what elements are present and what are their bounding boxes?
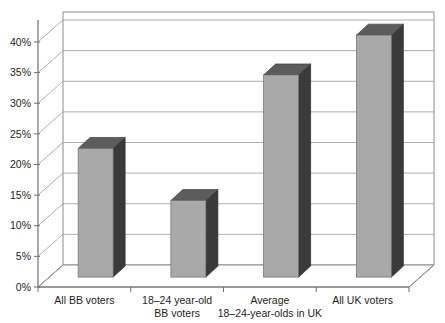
- y-axis-tick-label: 0%: [16, 281, 31, 293]
- y-axis-tick-label: 20%: [10, 158, 31, 170]
- x-axis-category-label: All BB voters: [54, 294, 114, 306]
- x-axis-category-label: 18–24-year-olds in UK: [218, 307, 322, 319]
- bar-side-face: [206, 190, 218, 278]
- bar-front-face: [171, 201, 206, 278]
- chart-svg: 0%5%10%15%20%25%30%35%40% All BB voters1…: [0, 0, 445, 323]
- bar-side-face: [299, 64, 311, 277]
- bar-chart-3d: 0%5%10%15%20%25%30%35%40% All BB voters1…: [0, 0, 445, 323]
- y-axis-tick-label: 35%: [10, 66, 31, 78]
- bar-side-face: [391, 24, 403, 277]
- x-axis-category-label: All UK voters: [332, 294, 393, 306]
- bar-column: [356, 24, 403, 277]
- x-axis-category-label: 18–24 year-old: [142, 294, 212, 306]
- bar-front-face: [264, 75, 299, 277]
- bar-side-face: [113, 137, 125, 277]
- y-axis-tick-label: 15%: [10, 189, 31, 201]
- y-axis-tick-label: 25%: [10, 128, 31, 140]
- bar-column: [264, 64, 311, 277]
- bar-front-face: [356, 35, 391, 277]
- x-axis-category-label: Average: [250, 294, 289, 306]
- x-axis-category-label: BB voters: [154, 307, 200, 319]
- y-axis-tick-label: 30%: [10, 97, 31, 109]
- bar-column: [171, 190, 218, 278]
- y-axis-tick-label: 5%: [16, 250, 31, 262]
- y-axis-tick-label: 40%: [10, 36, 31, 48]
- bar-front-face: [78, 148, 113, 277]
- bar-column: [78, 137, 125, 277]
- y-axis-tick-label: 10%: [10, 219, 31, 231]
